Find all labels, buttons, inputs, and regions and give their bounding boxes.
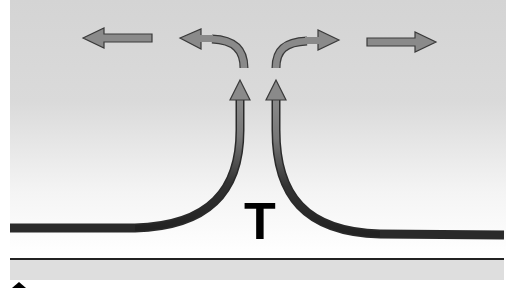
outflow-curved-left-arrow-icon <box>180 29 244 68</box>
corner-marker-icon <box>12 282 26 288</box>
outflow-curved-right-arrow-icon <box>276 30 339 68</box>
outflow-far-right-arrow-icon <box>367 32 436 52</box>
rising-right-arrow-icon <box>266 80 504 235</box>
outflow-far-left-arrow-icon <box>83 28 152 48</box>
rising-left-arrow-icon <box>10 80 250 228</box>
thermal-low-label: T <box>243 198 277 244</box>
